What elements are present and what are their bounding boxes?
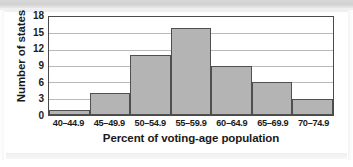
y-axis-tick-label: 3 [38,94,44,104]
figure-page: Number of states 0369121518 40–44.945–49… [0,0,353,167]
bar-series [49,17,333,115]
histogram-bar [171,28,212,115]
x-axis-tick-label: 70–74.9 [293,118,334,128]
histogram-bar [211,66,252,115]
histogram-bar [49,110,90,115]
x-axis-tick-label: 40–44.9 [48,118,89,128]
y-axis-tick-label: 9 [38,61,44,71]
plot-area [48,16,334,116]
y-axis-tick-label: 18 [33,11,44,21]
bar-slot [211,17,252,115]
y-axis-tick-label: 15 [33,28,44,38]
histogram-bar [90,93,131,115]
scan-artifact-top-band [0,0,353,8]
scan-artifact-bottom-band [6,153,347,159]
x-axis-tick-label: 65–69.9 [252,118,293,128]
y-axis-tick-label: 12 [33,44,44,54]
y-axis-tick-label: 6 [38,78,44,88]
bar-slot [252,17,293,115]
bar-slot [90,17,131,115]
x-axis-tick-labels: 40–44.945–49.950–54.955–59.960–64.965–69… [48,118,334,128]
histogram-figure: Number of states 0369121518 40–44.945–49… [4,12,349,152]
x-axis-tick-label: 50–54.9 [130,118,171,128]
histogram-bar [292,99,333,115]
bar-slot [171,17,212,115]
y-axis-tick-label: 0 [38,111,44,121]
histogram-bar [130,55,171,115]
x-axis-tick-label: 60–64.9 [211,118,252,128]
x-axis-title: Percent of voting-age population [48,132,334,144]
bar-slot [292,17,333,115]
y-axis-tick-labels: 0369121518 [24,16,44,116]
bar-slot [130,17,171,115]
x-axis-tick-label: 45–49.9 [89,118,130,128]
x-axis-tick-label: 55–59.9 [171,118,212,128]
bar-slot [49,17,90,115]
histogram-bar [252,82,293,115]
